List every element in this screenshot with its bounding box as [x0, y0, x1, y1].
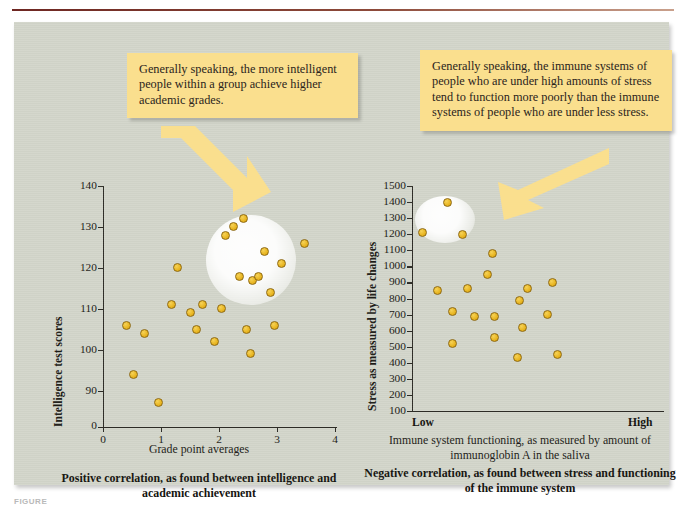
y-tick-mark: [98, 391, 103, 392]
y-tick-label: 140: [59, 179, 97, 191]
y-tick-mark: [98, 268, 103, 269]
y-axis-line: [103, 186, 104, 427]
data-point: [443, 198, 452, 207]
figure-panel: 90100110120130140001234Intelligence test…: [14, 22, 669, 485]
data-point: [260, 247, 269, 256]
left-plot-area: [103, 186, 335, 411]
figure-root: 90100110120130140001234Intelligence test…: [0, 0, 687, 512]
y-tick-mark: [407, 331, 412, 332]
y-tick-mark: [407, 234, 412, 235]
y-axis-title: Stress as measured by life changes: [366, 242, 379, 411]
data-point: [186, 308, 195, 317]
data-point: [418, 228, 427, 237]
data-point: [210, 337, 219, 346]
y-tick-label: 110: [59, 302, 97, 314]
data-point: [470, 312, 479, 321]
data-point: [266, 288, 275, 297]
data-point: [483, 270, 492, 279]
data-point: [518, 323, 527, 332]
x-axis-high-label: High: [628, 416, 652, 429]
data-point: [515, 296, 524, 305]
data-point: [167, 300, 176, 309]
y-tick-mark: [407, 266, 412, 267]
data-point: [490, 312, 499, 321]
y-tick-label: 1200: [368, 227, 406, 239]
y-tick-mark: [98, 227, 103, 228]
right-chart-caption: Negative correlation, as found between s…: [360, 466, 680, 496]
data-point: [254, 272, 263, 281]
y-tick-mark: [407, 395, 412, 396]
y-tick-mark: [98, 309, 103, 310]
callout-arrow-left: [161, 126, 271, 212]
y-tick-mark: [407, 411, 412, 412]
callout-right: Generally speaking, the immune systems o…: [420, 50, 672, 131]
y-tick-mark: [407, 218, 412, 219]
x-tick-mark: [161, 427, 162, 432]
data-point: [553, 350, 562, 359]
x-tick-mark: [103, 427, 104, 432]
y-tick-label: 1500: [368, 179, 406, 191]
data-point: [490, 333, 499, 342]
data-point: [173, 263, 182, 272]
y-tick-mark: [407, 282, 412, 283]
data-point: [488, 249, 497, 258]
y-tick-mark: [407, 315, 412, 316]
data-point: [463, 284, 472, 293]
y-tick-mark: [407, 250, 412, 251]
y-axis-line: [412, 186, 413, 411]
x-tick-mark: [335, 427, 336, 432]
x-tick-mark: [277, 427, 278, 432]
data-point: [154, 398, 163, 407]
y-tick-mark: [407, 379, 412, 380]
data-point: [129, 370, 138, 379]
x-tick-mark: [219, 427, 220, 432]
y-tick-mark: [407, 186, 412, 187]
y-tick-mark: [98, 186, 103, 187]
x-axis-line: [412, 411, 664, 412]
data-point: [433, 286, 442, 295]
y-tick-mark: [407, 202, 412, 203]
data-point: [448, 339, 457, 348]
y-tick-label: 120: [59, 261, 97, 273]
y-tick-label: 1300: [368, 211, 406, 223]
x-axis-title: Grade point averages: [40, 442, 358, 457]
callout-arrow-right: [484, 148, 609, 228]
left-scatter-chart: 90100110120130140001234Intelligence test…: [40, 174, 358, 492]
data-point: [458, 230, 467, 239]
x-axis-description: Immune system functioning, as measured b…: [360, 433, 680, 462]
data-point: [235, 272, 244, 281]
callout-left: Generally speaking, the more intelligent…: [127, 53, 358, 118]
data-point: [140, 329, 149, 338]
y-tick-label: 1400: [368, 195, 406, 207]
data-point: [122, 321, 131, 330]
data-point: [523, 284, 532, 293]
top-accent-rule: [12, 9, 674, 11]
y-tick-mark: [407, 363, 412, 364]
left-chart-caption: Positive correlation, as found between i…: [40, 471, 358, 501]
figure-number-label: FIGURE: [14, 497, 47, 506]
y-tick-mark: [98, 350, 103, 351]
data-point: [242, 325, 251, 334]
y-tick-label: 130: [59, 220, 97, 232]
data-point: [513, 353, 522, 362]
data-point: [543, 310, 552, 319]
x-axis-low-label: Low: [412, 416, 434, 429]
data-point: [448, 307, 457, 316]
data-point: [548, 278, 557, 287]
y-tick-mark: [407, 347, 412, 348]
y-tick-mark: [407, 299, 412, 300]
data-point: [270, 321, 279, 330]
y-axis-title: Intelligence test scores: [52, 316, 65, 427]
